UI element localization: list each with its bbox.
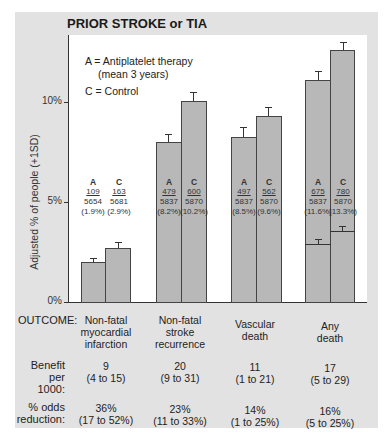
benefit-vascular-death: 11 (1 to 21) [215, 361, 295, 385]
outcome-vascular-death: Vascular death [215, 318, 295, 342]
outcome-any-death: Any death [290, 320, 370, 344]
odds-mi: 36% (17 to 52%) [66, 402, 146, 426]
legend-a-sublabel: (mean 3 years) [85, 68, 193, 81]
error-cap [265, 107, 272, 108]
counts-vascular-c: C 562 5870 (9.6%) [254, 177, 284, 217]
error-cap [340, 42, 347, 43]
bar-mi-c [105, 248, 131, 303]
y-tick-label-0: 0% [26, 295, 62, 306]
error-cap [190, 92, 197, 93]
benefit-stroke: 20 (9 to 31) [140, 360, 220, 384]
error-bar [193, 92, 194, 101]
odds-stroke: 23% (11 to 33%) [140, 403, 220, 427]
odds-any-death: 16% (5 to 25%) [290, 405, 370, 429]
bar-stroke-a [156, 142, 182, 303]
error-cap [315, 239, 322, 240]
error-bar [243, 127, 244, 137]
counts-mi-c: C 163 5681 (2.9%) [104, 177, 134, 217]
error-bar [343, 42, 344, 50]
outcome-mi: Non-fatal myocardial infarction [66, 314, 146, 350]
benefit-row-label: Benefit per 1000: [14, 359, 65, 395]
legend-a: A = Antiplatelet therapy (mean 3 years) [85, 55, 193, 81]
odds-row-label: % odds reduction: [14, 401, 65, 425]
error-cap [240, 127, 247, 128]
y-axis-label: Adjusted % of people (+1SD) [28, 134, 40, 270]
outcome-row-label: OUTCOME: [18, 314, 68, 326]
y-tick-0 [64, 302, 69, 303]
error-cap [90, 258, 97, 259]
benefit-any-death: 17 (5 to 29) [290, 362, 370, 386]
error-cap [315, 71, 322, 72]
bar-any-death-c-inner-line [330, 231, 355, 232]
counts-stroke-c: C 600 5870 (10.2%) [179, 177, 209, 217]
chart-title: PRIOR STROKE or TIA [67, 16, 207, 31]
legend-c: C = Control [85, 85, 138, 98]
legend-a-label: A = Antiplatelet therapy [85, 55, 193, 68]
error-bar [318, 71, 319, 80]
error-cap [165, 134, 172, 135]
y-axis [68, 35, 69, 303]
error-bar [168, 134, 169, 142]
bar-vascular-a [231, 137, 257, 303]
error-bar [268, 107, 269, 116]
counts-any-death-c: C 780 5870 (13.3%) [328, 177, 358, 217]
outcome-stroke: Non-fatal stroke recurrence [140, 314, 220, 350]
error-cap [339, 226, 346, 227]
odds-vascular-death: 14% (1 to 25%) [215, 404, 295, 428]
bar-any-death-a-inner-line [305, 244, 331, 245]
bar-mi-a [81, 262, 106, 303]
y-tick-5 [64, 202, 69, 203]
y-tick-label-10: 10% [26, 95, 62, 106]
error-cap [115, 242, 122, 243]
y-tick-10 [64, 102, 69, 103]
benefit-mi: 9 (4 to 15) [66, 360, 146, 384]
